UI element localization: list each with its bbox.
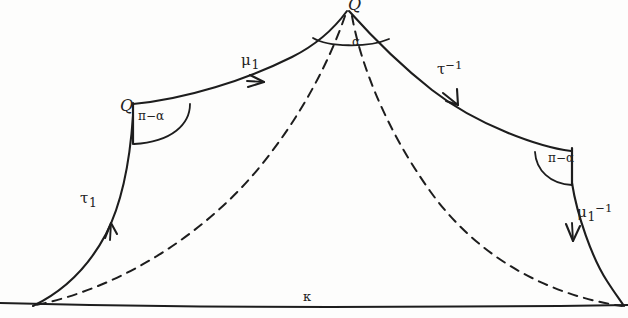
dashed-geodesic-right [352, 16, 622, 306]
curve-label-mu-1: μ1 [241, 53, 259, 71]
geodesic-diagram-figure: Q Q α π−α π−α τ1 μ1 τ−1 μ1−1 κ [0, 0, 628, 318]
angle-label-right-pi-minus-alpha: π−α [548, 152, 574, 164]
curve-mu-1 [133, 11, 347, 104]
curve-label-tau-inverse: τ−1 [437, 60, 463, 77]
curve-label-tau-1: τ1 [80, 191, 97, 209]
baseline-label-kappa: κ [303, 290, 311, 303]
baseline-kappa [0, 303, 628, 307]
arrowhead-tau-1-tail [110, 223, 111, 240]
angle-label-apex-alpha: α [352, 36, 360, 48]
arrowhead-mu-1-tail [247, 81, 264, 82]
vertex-label-apex: Q [348, 0, 361, 13]
vertex-label-left-Q: Q [120, 98, 133, 114]
dashed-geodesic-left [36, 16, 345, 305]
curve-label-mu-1-inverse: μ1−1 [577, 203, 613, 223]
angle-label-left-pi-minus-alpha: π−α [138, 110, 164, 122]
diagram-canvas [0, 0, 628, 318]
arrowhead-mu-1-inverse-tail [572, 223, 573, 241]
curve-tau-inverse [349, 11, 571, 151]
